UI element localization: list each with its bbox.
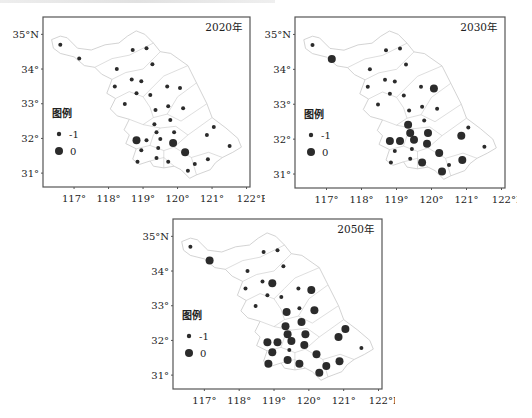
station-dot-minus1 <box>404 63 408 67</box>
station-dot-minus1 <box>166 160 170 164</box>
map-panel-2020: 117°118°119°120°121°122°E35°N34°33°32°31… <box>3 15 265 219</box>
station-dot-minus1 <box>135 91 139 95</box>
station-dot-0 <box>423 140 431 148</box>
station-dot-minus1 <box>393 149 397 153</box>
station-dot-0 <box>264 360 272 368</box>
station-dot-minus1 <box>212 125 216 129</box>
y-tick-label: 31° <box>151 370 169 381</box>
x-tick-label: 117° <box>314 194 338 205</box>
station-dot-minus1 <box>165 84 169 88</box>
station-dot-minus1 <box>139 79 143 83</box>
panel-title: 2050年 <box>337 223 374 235</box>
station-dot-minus1 <box>172 130 176 134</box>
station-dot-minus1 <box>261 279 265 283</box>
station-dot-minus1 <box>148 93 152 97</box>
station-dot-minus1 <box>398 46 402 50</box>
y-tick-label: 33° <box>151 300 169 311</box>
station-dot-0 <box>406 129 414 137</box>
station-dot-0 <box>283 308 291 316</box>
y-tick-label: 32° <box>151 335 169 346</box>
station-dot-minus1 <box>152 122 156 126</box>
station-dot-0 <box>284 330 292 338</box>
station-dot-minus1 <box>155 130 159 134</box>
station-dot-minus1 <box>408 157 412 161</box>
x-tick-label: 118° <box>97 193 121 204</box>
station-dot-minus1 <box>311 43 315 47</box>
station-dot-0 <box>386 137 394 145</box>
station-dot-0 <box>328 55 336 63</box>
station-dot-minus1 <box>168 118 172 122</box>
station-dot-0 <box>313 350 321 358</box>
y-tick-label: 34° <box>273 64 291 75</box>
station-dot-minus1 <box>244 286 248 290</box>
panel-title: 2030年 <box>460 21 497 33</box>
station-dot-0 <box>287 337 295 345</box>
station-dot-0 <box>404 121 412 129</box>
station-dot-minus1 <box>482 145 486 149</box>
station-dot-0 <box>310 306 318 314</box>
x-tick-label: 119° <box>131 193 155 204</box>
station-dot-0 <box>396 137 404 145</box>
station-dot-minus1 <box>228 144 232 148</box>
y-tick-label: 32° <box>273 134 291 145</box>
station-dot-minus1 <box>368 67 372 71</box>
station-dot-0 <box>418 159 426 167</box>
legend-label-minus1: -1 <box>69 129 79 140</box>
station-dot-0 <box>307 286 315 294</box>
station-dot-minus1 <box>139 148 143 152</box>
station-dot-minus1 <box>402 94 406 98</box>
legend-large-dot <box>307 148 315 156</box>
station-dot-0 <box>336 357 344 365</box>
y-tick-label: 34° <box>151 266 169 277</box>
station-dot-minus1 <box>206 157 210 161</box>
station-dot-minus1 <box>297 306 301 310</box>
x-tick-label: 122°E <box>492 194 517 205</box>
station-dot-minus1 <box>136 160 140 164</box>
station-dot-minus1 <box>158 137 162 141</box>
station-dot-minus1 <box>287 348 291 352</box>
station-dot-0 <box>438 168 446 176</box>
station-dot-minus1 <box>262 250 266 254</box>
station-dot-minus1 <box>265 293 269 297</box>
map-svg: 117°118°119°120°121°122°E35°N34°33°32°31… <box>3 15 265 215</box>
station-dot-minus1 <box>193 162 197 166</box>
station-dot-minus1 <box>359 346 363 350</box>
legend-label-0: 0 <box>70 146 76 157</box>
station-dot-0 <box>181 148 189 156</box>
legend-title: 图例 <box>304 108 324 120</box>
station-dot-minus1 <box>205 133 209 137</box>
y-tick-label: 34° <box>21 64 39 75</box>
legend-large-dot <box>185 349 193 357</box>
station-dot-minus1 <box>254 304 258 308</box>
station-dot-minus1 <box>407 109 411 113</box>
station-dot-minus1 <box>115 67 119 71</box>
station-dot-minus1 <box>388 92 392 96</box>
station-dot-minus1 <box>186 169 190 173</box>
station-dot-0 <box>410 136 418 144</box>
cropped-caption-line <box>0 0 275 3</box>
station-dot-minus1 <box>296 286 300 290</box>
station-dot-minus1 <box>276 248 280 252</box>
x-tick-label: 120° <box>166 193 190 204</box>
y-tick-label: 31° <box>21 168 39 179</box>
station-dot-0 <box>435 149 443 157</box>
legend-label-minus1: -1 <box>321 130 331 141</box>
x-tick-label: 121° <box>454 194 478 205</box>
x-tick-label: 118° <box>349 194 373 205</box>
legend-label-minus1: -1 <box>199 331 209 342</box>
legend-large-dot <box>55 147 63 155</box>
x-tick-label: 121° <box>332 395 356 406</box>
station-dot-minus1 <box>113 84 117 88</box>
station-dot-minus1 <box>130 77 134 81</box>
station-dot-0 <box>295 360 303 368</box>
station-dot-minus1 <box>178 86 182 90</box>
x-tick-label: 121° <box>200 193 224 204</box>
station-dot-minus1 <box>435 107 439 111</box>
map-svg: 117°118°119°120°121°122°E35°N34°33°32°31… <box>133 217 395 417</box>
legend-title: 图例 <box>182 309 202 321</box>
map-svg: 117°118°119°120°121°122°E35°N34°33°32°31… <box>255 15 517 215</box>
station-dot-minus1 <box>145 138 149 142</box>
legend-small-dot <box>57 132 61 136</box>
station-dot-0 <box>263 338 271 346</box>
station-dot-minus1 <box>410 147 414 151</box>
